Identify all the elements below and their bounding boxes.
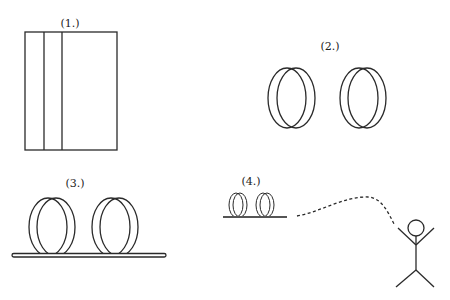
diagram-svg: (1.) (2.) (3.) (4.) (0, 0, 450, 300)
ring-right (340, 68, 386, 128)
bar (12, 254, 166, 258)
ring-right (92, 198, 138, 256)
figure-right-leg (416, 270, 434, 287)
ring-left (29, 198, 75, 256)
figure-head (408, 220, 424, 236)
panel-4-label: (4.) (241, 175, 260, 188)
figure-left-arm (398, 228, 416, 245)
panel-2-label: (2.) (320, 40, 339, 53)
stick-figure (396, 220, 434, 287)
small-ring-left (229, 193, 247, 217)
panel-4: (4.) (223, 175, 434, 287)
diagram-canvas: (1.) (2.) (3.) (4.) (0, 0, 450, 300)
panel-1-label: (1.) (60, 17, 79, 30)
panel-1: (1.) (25, 17, 117, 150)
sheet-rectangle (25, 32, 117, 150)
panel-2: (2.) (268, 40, 386, 128)
dashed-trajectory (297, 197, 395, 226)
figure-right-arm (416, 228, 434, 245)
ring-left (268, 68, 315, 128)
panel-3: (3.) (12, 177, 166, 257)
figure-left-leg (396, 270, 416, 287)
panel-3-label: (3.) (65, 177, 84, 190)
small-ring-right (256, 193, 274, 217)
